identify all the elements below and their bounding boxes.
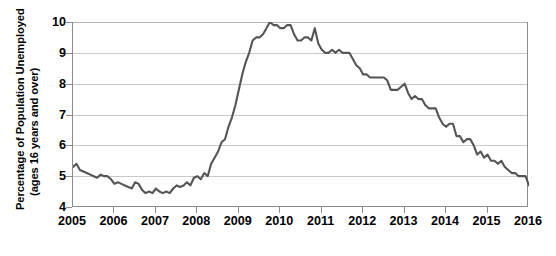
x-tick-mark-2012 (362, 207, 363, 213)
y-tick-label-8: 8 (44, 78, 66, 91)
x-tick-mark-2013 (404, 207, 405, 213)
y-tick-label-7: 7 (44, 109, 66, 122)
x-tick-mark-2008 (196, 207, 197, 213)
y-tick-label-6: 6 (44, 139, 66, 152)
y-tick-label-5: 5 (44, 170, 66, 183)
x-tick-label-2016: 2016 (503, 215, 553, 228)
x-tick-mark-2011 (321, 207, 322, 213)
x-tick-mark-2014 (445, 207, 446, 213)
y-tick-label-4: 4 (44, 201, 66, 214)
x-tick-mark-2007 (155, 207, 156, 213)
y-tick-mark-4 (66, 207, 72, 208)
y-tick-label-10: 10 (44, 16, 66, 29)
y-axis-title-line-1: Percentage of Population Unemployed (14, 8, 26, 210)
x-tick-mark-2006 (113, 207, 114, 213)
plot-area (72, 22, 528, 207)
x-tick-mark-2010 (279, 207, 280, 213)
y-axis-title: Percentage of Population Unemployed (age… (0, 0, 40, 230)
x-tick-mark-2015 (487, 207, 488, 213)
unemployment-line-chart: Percentage of Population Unemployed (age… (0, 0, 556, 256)
x-tick-mark-2009 (238, 207, 239, 213)
series-unemployment-rate (73, 22, 529, 207)
y-tick-label-9: 9 (44, 47, 66, 60)
y-axis-title-line-2: (ages 16 years and over) (28, 68, 40, 196)
